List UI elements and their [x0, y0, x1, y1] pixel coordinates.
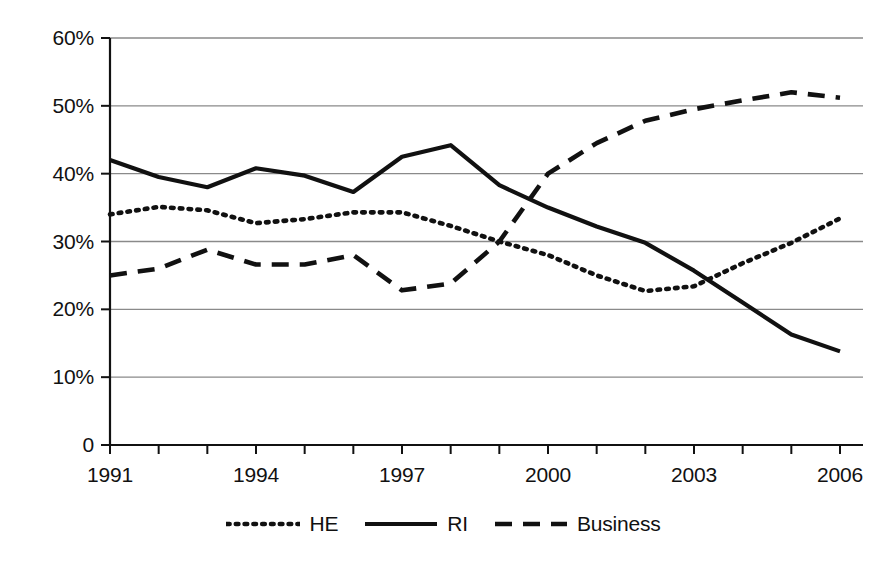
legend-swatch-solid: [364, 517, 438, 531]
legend-item-he: HE: [226, 512, 338, 536]
x-tick-label-1997: 1997: [379, 463, 425, 487]
y-tick-label-40: 40%: [0, 162, 94, 186]
legend-swatch-dashed: [494, 517, 568, 531]
y-tick-label-30: 30%: [0, 230, 94, 254]
y-axis-ticks: [101, 38, 110, 445]
series-line-business: [110, 92, 840, 290]
series-line-ri: [110, 145, 840, 351]
y-tick-label-60: 60%: [0, 26, 94, 50]
series-line-he: [110, 207, 840, 291]
x-tick-label-1994: 1994: [233, 463, 279, 487]
x-tick-label-2000: 2000: [525, 463, 571, 487]
y-tick-label-10: 10%: [0, 365, 94, 389]
legend-label: HE: [309, 512, 338, 536]
chart-plot-area: [0, 0, 887, 575]
line-chart: 010%20%30%40%50%60% 19911994199720002003…: [0, 0, 887, 575]
y-tick-label-20: 20%: [0, 297, 94, 321]
x-tick-label-2003: 2003: [671, 463, 717, 487]
legend-item-ri: RI: [364, 512, 468, 536]
chart-legend: HERIBusiness: [0, 512, 887, 536]
y-tick-label-50: 50%: [0, 94, 94, 118]
x-tick-label-2006: 2006: [817, 463, 863, 487]
x-axis-ticks: [110, 445, 840, 454]
y-tick-label-0: 0: [0, 433, 94, 457]
legend-label: RI: [447, 512, 468, 536]
gridlines: [110, 38, 863, 377]
x-tick-label-1991: 1991: [87, 463, 133, 487]
legend-swatch-dotted: [226, 517, 300, 531]
data-series-group: [110, 92, 840, 351]
legend-label: Business: [577, 512, 661, 536]
legend-item-business: Business: [494, 512, 661, 536]
